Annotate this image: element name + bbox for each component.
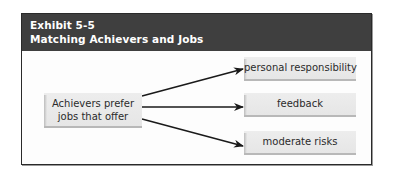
source-line-1: Achievers prefer — [44, 97, 142, 110]
source-box: Achievers prefer jobs that offer — [44, 93, 142, 128]
source-line-2: jobs that offer — [44, 110, 142, 123]
exhibit-frame: Exhibit 5-5 Matching Achievers and Jobs … — [21, 13, 372, 165]
target-label: personal responsibility — [244, 57, 356, 78]
target-box-feedback: feedback — [244, 93, 356, 117]
arrow-to-personal-responsibility — [142, 69, 243, 96]
target-label: feedback — [244, 93, 356, 114]
arrow-to-moderate-risks — [142, 119, 243, 146]
target-box-personal-responsibility: personal responsibility — [244, 57, 356, 81]
target-label: moderate risks — [244, 131, 356, 152]
target-box-moderate-risks: moderate risks — [244, 131, 356, 155]
